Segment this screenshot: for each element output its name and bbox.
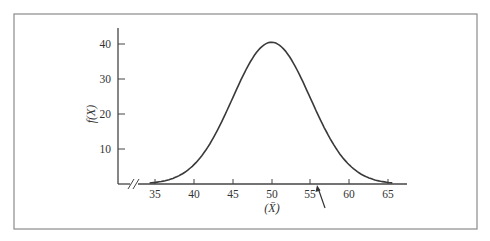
y-tick-labels: 10 20 30 40 [100,38,112,155]
x-tick-labels: 35 40 45 50 55 60 65 [149,188,394,200]
arrow-annotation-icon [316,185,326,208]
x-tick-label: 40 [188,188,200,200]
x-tick-label: 35 [149,188,161,200]
x-tick-label: 50 [266,188,278,200]
y-ticks [118,44,125,149]
x-tick-label: 45 [227,188,239,200]
x-tick-label: 55 [304,188,316,200]
normal-distribution-chart: 10 20 30 40 f(X) 35 40 45 50 55 60 65 (X… [0,0,490,241]
y-tick-label: 10 [100,143,112,155]
y-axis-label: f(X) [84,105,98,124]
y-tick-label: 20 [100,108,112,120]
normal-curve [150,42,393,183]
y-tick-label: 30 [100,73,112,85]
x-ticks [155,179,388,184]
x-axis-label: (X̄) [264,201,279,215]
x-tick-label: 65 [382,188,394,200]
y-tick-label: 40 [100,38,112,50]
x-tick-label: 60 [343,188,355,200]
